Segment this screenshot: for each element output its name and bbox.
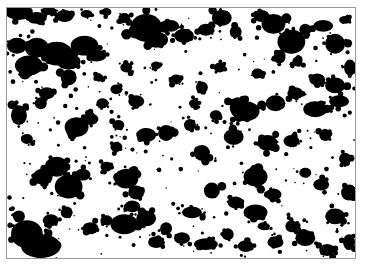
particle-dot — [184, 50, 187, 53]
particle-speck — [64, 157, 70, 163]
particle-dot — [253, 61, 254, 62]
particle-speck — [44, 223, 49, 228]
particle-speck — [68, 10, 74, 16]
particle-dot — [230, 32, 235, 37]
particle-dot — [340, 224, 343, 227]
particle-speck — [228, 239, 230, 241]
particle-dot — [193, 251, 194, 252]
particle-speck — [300, 229, 307, 236]
particle-dot — [56, 120, 61, 125]
particle-speck — [195, 125, 200, 130]
particle-speck — [227, 200, 230, 203]
particle-speck — [319, 175, 325, 181]
particle-speck — [101, 223, 105, 227]
particle-dot — [326, 246, 330, 250]
particle-speck — [324, 129, 326, 131]
particle-speck — [144, 140, 150, 146]
particle-speck — [130, 61, 133, 64]
particle-speck — [130, 212, 134, 216]
particle-dot — [90, 61, 92, 63]
particle-dot — [242, 172, 244, 174]
particle-dot — [329, 96, 332, 99]
particle-speck — [301, 62, 306, 67]
particle-speck — [54, 223, 57, 226]
particle-dot — [73, 215, 74, 216]
particle-speck — [123, 24, 125, 26]
particle-speck — [254, 163, 264, 173]
particle-speck — [58, 217, 62, 221]
particle-speck — [101, 214, 105, 218]
particle-speck — [136, 132, 139, 135]
particle-speck — [104, 106, 106, 108]
particle-speck — [160, 244, 165, 249]
particle-dot — [191, 95, 195, 99]
particle-speck — [100, 107, 103, 110]
particle-dot — [150, 81, 153, 84]
particle-speck — [33, 102, 35, 104]
particle-dot — [219, 92, 220, 93]
particle-speck — [37, 19, 44, 26]
particle-dot — [323, 185, 327, 189]
particle-speck — [213, 195, 217, 199]
particle-speck — [281, 13, 291, 23]
particle-speck — [89, 177, 92, 180]
particle-speck — [328, 22, 330, 24]
particle-speck — [285, 137, 287, 139]
particle-speck — [106, 222, 110, 226]
particle-speck — [96, 104, 98, 106]
particle-dot — [73, 87, 78, 92]
particle-dot — [339, 45, 341, 47]
particle-speck — [58, 43, 61, 46]
particle-speck — [279, 103, 285, 109]
particle-dot — [21, 65, 24, 68]
particle-speck — [211, 32, 214, 35]
particle-dot — [73, 74, 74, 75]
particle-speck — [333, 251, 338, 256]
particle-speck — [295, 100, 297, 102]
particle-dot — [204, 126, 207, 129]
particle-speck — [45, 98, 48, 101]
particle-speck — [15, 220, 17, 222]
particle-speck — [46, 59, 51, 64]
particle-dot — [343, 113, 347, 117]
particle-dot — [107, 43, 108, 44]
particle-dot — [312, 29, 313, 30]
particle-speck — [18, 72, 22, 76]
particle-dot — [188, 18, 189, 19]
particle-speck — [149, 238, 153, 242]
particle-dot — [231, 138, 233, 140]
particle-speck — [138, 187, 145, 194]
particle-speck — [129, 13, 134, 18]
particle-speck — [110, 165, 114, 169]
particle-speck — [217, 182, 226, 191]
particle-dot — [290, 146, 292, 148]
particle-speck — [341, 21, 344, 24]
particle-dot — [7, 195, 12, 200]
particle-speck — [273, 233, 276, 236]
particle-speck — [256, 25, 262, 31]
particle-speck — [174, 234, 178, 238]
particle-dot — [49, 128, 52, 131]
particle-dot — [88, 162, 91, 165]
particle-dot — [149, 234, 151, 236]
particle-speck — [309, 25, 316, 32]
particle-speck — [292, 241, 298, 247]
particle-speck — [244, 117, 249, 122]
particle-speck — [133, 103, 139, 109]
particle-dot — [63, 104, 67, 108]
particle-speck — [76, 64, 81, 69]
particle-dot — [37, 122, 39, 124]
particle-dot — [171, 33, 175, 37]
particle-speck — [218, 243, 222, 247]
particle-speck — [103, 15, 108, 20]
particle-dot — [31, 173, 36, 178]
particle-dot — [238, 69, 240, 71]
particle-dot — [30, 29, 35, 34]
particle-dot — [43, 13, 47, 17]
particle-speck — [340, 218, 347, 225]
particle-speck — [274, 50, 280, 56]
particle-dot — [22, 197, 24, 199]
particle-dot — [148, 22, 153, 27]
particle-speck — [195, 81, 197, 83]
particle-dot — [335, 230, 338, 233]
